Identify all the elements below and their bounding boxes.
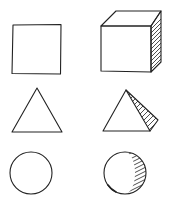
cube-shape (101, 11, 162, 74)
circle-shape (10, 152, 52, 194)
pyramid-shape (103, 88, 162, 133)
shapes-diagram (0, 0, 172, 211)
square-shape (12, 25, 61, 75)
triangle-shape (12, 88, 62, 132)
sphere-shape (104, 146, 148, 202)
